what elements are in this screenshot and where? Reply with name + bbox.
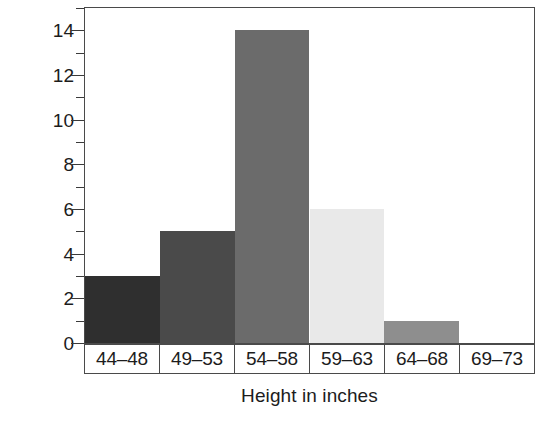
y-tick-major — [71, 209, 85, 210]
y-tick-major — [71, 75, 85, 76]
y-tick-label: 10 — [38, 110, 74, 129]
y-tick-major — [71, 254, 85, 255]
bar — [160, 231, 235, 343]
x-category-label: 49–53 — [160, 345, 235, 373]
y-tick-major — [71, 30, 85, 31]
y-tick-label: 12 — [38, 66, 74, 85]
y-tick-label: 2 — [38, 289, 74, 308]
bars-layer — [85, 8, 534, 343]
x-axis-category-boxes: 44–4849–5354–5859–6364–6869–73 — [84, 344, 535, 374]
y-tick-major — [71, 298, 85, 299]
y-tick-major — [71, 343, 85, 344]
y-tick-label: 4 — [38, 244, 74, 263]
y-tick-major — [71, 164, 85, 165]
x-category-label: 59–63 — [310, 345, 385, 373]
y-axis-tick-labels: 02468101214 — [38, 0, 74, 423]
x-category-label: 69–73 — [460, 345, 534, 373]
x-category-label: 54–58 — [235, 345, 310, 373]
bar — [235, 30, 310, 343]
bar — [384, 321, 459, 343]
y-tick-label: 14 — [38, 21, 74, 40]
y-tick-label: 8 — [38, 155, 74, 174]
x-axis-title: Height in inches — [84, 385, 535, 407]
y-tick-label: 0 — [38, 334, 74, 353]
bar — [85, 276, 160, 343]
x-category-label: 44–48 — [85, 345, 160, 373]
bar — [310, 209, 385, 343]
histogram-chart: Number of students 02468101214 44–4849–5… — [0, 0, 551, 423]
y-tick-major — [71, 120, 85, 121]
x-category-label: 64–68 — [385, 345, 460, 373]
y-tick-label: 6 — [38, 200, 74, 219]
